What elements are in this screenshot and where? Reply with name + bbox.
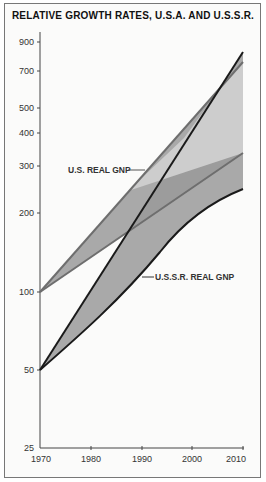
svg-text:900: 900 <box>19 37 34 47</box>
svg-text:400: 400 <box>19 128 34 138</box>
svg-text:700: 700 <box>19 66 34 76</box>
x-ticks: 1970 1980 1990 2000 2010 <box>31 446 246 464</box>
us-gnp-label: U.S. REAL GNP <box>68 165 131 175</box>
svg-text:1970: 1970 <box>31 454 51 464</box>
y-ticks: 900 700 500 400 300 200 100 50 25 <box>19 37 40 453</box>
svg-text:2010: 2010 <box>226 454 246 464</box>
svg-text:300: 300 <box>19 161 34 171</box>
svg-text:50: 50 <box>24 365 34 375</box>
svg-text:500: 500 <box>19 103 34 113</box>
svg-text:200: 200 <box>19 208 34 218</box>
ussr-upper-line <box>40 52 243 370</box>
svg-text:1980: 1980 <box>81 454 101 464</box>
ussr-gnp-label: U.S.S.R. REAL GNP <box>155 272 235 282</box>
svg-text:1990: 1990 <box>132 454 152 464</box>
chart-plot: 900 700 500 400 300 200 100 50 25 1970 1… <box>0 0 266 482</box>
svg-text:25: 25 <box>24 443 34 453</box>
svg-text:100: 100 <box>19 287 34 297</box>
svg-text:2000: 2000 <box>182 454 202 464</box>
